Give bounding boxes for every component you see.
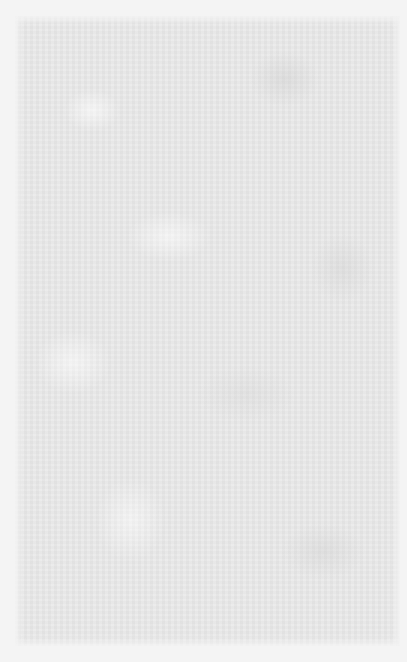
paper-texture-area xyxy=(15,16,400,646)
paper-background xyxy=(0,0,407,662)
